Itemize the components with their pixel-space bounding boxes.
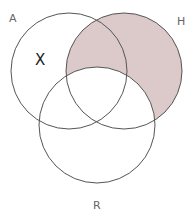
label-r: R [93, 199, 101, 212]
marker-x: X [35, 51, 45, 69]
shaded-region [0, 0, 195, 220]
label-a: A [9, 12, 17, 25]
label-h: H [177, 15, 185, 28]
venn-diagram: A H R X [0, 0, 195, 220]
